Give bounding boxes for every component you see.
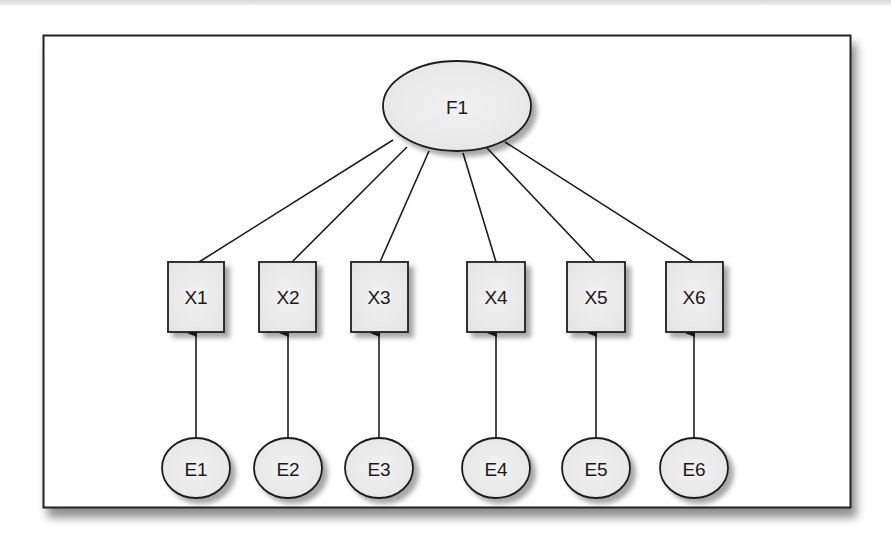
- error-label: E6: [682, 459, 705, 480]
- indicator-node-x5: X5: [567, 262, 625, 332]
- indicator-node-x4: X4: [467, 262, 525, 332]
- indicator-node-x6: X6: [666, 262, 723, 332]
- indicator-label: X3: [367, 287, 390, 308]
- indicator-node-x1: X1: [168, 262, 224, 332]
- factor-label: F1: [446, 97, 468, 118]
- indicator-node-x3: X3: [351, 262, 408, 332]
- error-label: E3: [367, 459, 390, 480]
- factor-node-f1: F1: [383, 61, 531, 151]
- indicator-label: X4: [484, 287, 508, 308]
- error-node-e5: E5: [562, 438, 630, 498]
- indicator-label: X2: [276, 287, 299, 308]
- error-node-e6: E6: [660, 438, 728, 498]
- error-node-e3: E3: [345, 438, 413, 498]
- error-label: E5: [584, 459, 607, 480]
- error-label: E1: [184, 459, 207, 480]
- indicator-node-x2: X2: [259, 262, 316, 332]
- indicator-label: X6: [682, 287, 705, 308]
- error-node-e2: E2: [254, 438, 322, 498]
- path-diagram: F1 X1 X2 X3 X4 X5: [0, 0, 891, 545]
- indicator-label: X5: [584, 287, 607, 308]
- error-node-e1: E1: [162, 438, 230, 498]
- indicator-label: X1: [184, 287, 207, 308]
- error-label: E4: [484, 459, 508, 480]
- error-node-e4: E4: [462, 438, 530, 498]
- error-label: E2: [276, 459, 299, 480]
